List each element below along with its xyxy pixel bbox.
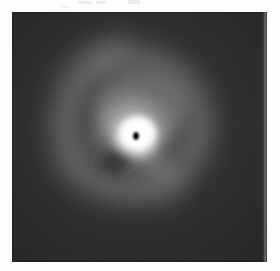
occulting-mask-spot (132, 131, 139, 140)
scan-mark (62, 6, 70, 8)
plate-rendering (12, 12, 267, 262)
page-canvas (0, 0, 280, 271)
scan-mark (128, 0, 140, 4)
bright-stellar-core-peak (121, 117, 155, 147)
scan-artifacts (0, 0, 280, 12)
astronomical-image-plate[interactable] (12, 12, 267, 262)
scan-mark (96, 1, 106, 4)
scan-mark (78, 1, 92, 4)
